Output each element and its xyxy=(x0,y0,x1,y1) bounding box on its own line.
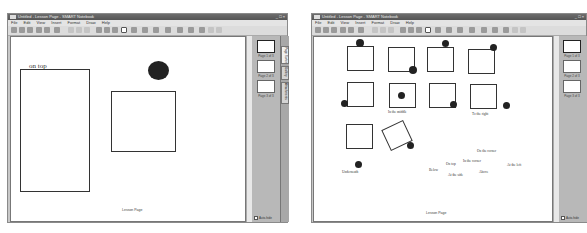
circle[interactable] xyxy=(398,92,405,99)
add-page-icon[interactable] xyxy=(27,27,33,33)
prev-page-icon[interactable] xyxy=(315,27,321,33)
shapes-icon[interactable] xyxy=(481,27,487,33)
checkbox-icon[interactable] xyxy=(254,216,258,220)
properties-icon[interactable] xyxy=(208,27,214,33)
open-icon[interactable] xyxy=(36,27,42,33)
next-page-icon[interactable] xyxy=(323,27,329,33)
menu-help[interactable]: Help xyxy=(406,20,414,25)
page-thumbnail-3[interactable] xyxy=(257,80,275,93)
creative-pen-icon[interactable] xyxy=(446,27,452,33)
text-icon[interactable] xyxy=(188,27,194,33)
screen-shade-icon[interactable] xyxy=(96,27,102,33)
page-thumbnail-3[interactable] xyxy=(563,80,581,93)
square[interactable] xyxy=(468,49,495,74)
menu-edit[interactable]: Edit xyxy=(328,20,335,25)
pen-icon[interactable] xyxy=(435,27,441,33)
text-label[interactable]: Below xyxy=(429,168,438,172)
highlighter-icon[interactable] xyxy=(153,27,159,33)
menu-format[interactable]: Format xyxy=(371,20,384,25)
circle[interactable] xyxy=(407,142,414,149)
fill-icon[interactable] xyxy=(503,27,509,33)
circle[interactable] xyxy=(450,101,457,108)
redo-icon[interactable] xyxy=(76,27,82,33)
select-arrow-icon[interactable] xyxy=(425,27,431,33)
prev-page-icon[interactable] xyxy=(11,27,17,33)
square[interactable] xyxy=(347,82,374,107)
pen-icon[interactable] xyxy=(131,27,137,33)
page-thumbnail-1[interactable] xyxy=(563,40,581,53)
page-thumbnail-2[interactable] xyxy=(563,60,581,73)
circle[interactable] xyxy=(341,100,348,107)
line-icon[interactable] xyxy=(165,27,171,33)
delete-icon[interactable] xyxy=(84,27,90,33)
menu-view[interactable]: View xyxy=(341,20,350,25)
open-icon[interactable] xyxy=(340,27,346,33)
menu-draw[interactable]: Draw xyxy=(86,20,95,25)
table-icon[interactable] xyxy=(104,27,110,33)
text-label[interactable]: On top xyxy=(446,162,456,166)
tab-attachments[interactable]: Attachments xyxy=(281,82,289,104)
auto-hide-checkbox[interactable]: Auto-hide xyxy=(561,216,579,220)
rectangle-tall[interactable] xyxy=(20,69,90,192)
delete-icon[interactable] xyxy=(388,27,394,33)
undo-icon[interactable] xyxy=(68,27,74,33)
table-icon[interactable] xyxy=(408,27,414,33)
add-page-icon[interactable] xyxy=(331,27,337,33)
menu-insert[interactable]: Insert xyxy=(51,20,61,25)
menu-draw[interactable]: Draw xyxy=(390,20,399,25)
page-thumbnail-2[interactable] xyxy=(257,60,275,73)
menu-format[interactable]: Format xyxy=(67,20,80,25)
text-label[interactable]: In the middle xyxy=(388,110,407,114)
highlighter-icon[interactable] xyxy=(457,27,463,33)
save-icon[interactable] xyxy=(348,27,354,33)
menu-file[interactable]: File xyxy=(11,20,17,25)
tab-gallery[interactable]: Gallery xyxy=(281,66,289,80)
capture-icon[interactable] xyxy=(112,27,118,33)
properties-icon[interactable] xyxy=(512,27,518,33)
line-icon[interactable] xyxy=(469,27,475,33)
menu-edit[interactable]: Edit xyxy=(24,20,31,25)
save-icon[interactable] xyxy=(44,27,50,33)
move-toolbar-icon[interactable] xyxy=(520,27,526,33)
text-label[interactable]: At the side xyxy=(448,173,463,177)
circle[interactable] xyxy=(503,102,510,109)
circle[interactable] xyxy=(409,66,417,74)
text-label[interactable]: On the corner xyxy=(477,149,496,153)
paste-icon[interactable] xyxy=(358,27,364,33)
page-thumbnail-1[interactable] xyxy=(257,40,275,53)
circle[interactable] xyxy=(490,44,497,51)
undo-icon[interactable] xyxy=(372,27,378,33)
page-canvas[interactable]: In the middle To the right Underneath On… xyxy=(313,36,553,222)
capture-icon[interactable] xyxy=(416,27,422,33)
screen-shade-icon[interactable] xyxy=(400,27,406,33)
move-toolbar-icon[interactable] xyxy=(216,27,222,33)
text-label[interactable]: To the right xyxy=(472,112,488,116)
square[interactable] xyxy=(470,84,497,109)
checkbox-icon[interactable] xyxy=(561,216,565,220)
page-canvas[interactable]: on top Lesson Page xyxy=(10,36,246,222)
circle[interactable] xyxy=(442,40,449,47)
redo-icon[interactable] xyxy=(380,27,386,33)
square[interactable] xyxy=(346,124,373,149)
text-label[interactable]: At the left xyxy=(507,163,521,167)
menu-help[interactable]: Help xyxy=(102,20,110,25)
square[interactable] xyxy=(111,91,176,152)
shapes-icon[interactable] xyxy=(177,27,183,33)
square[interactable] xyxy=(347,46,374,71)
tab-page-sorter[interactable]: Page Sorter xyxy=(281,46,289,64)
auto-hide-checkbox[interactable]: Auto-hide xyxy=(254,216,272,220)
circle[interactable] xyxy=(356,39,364,47)
menu-insert[interactable]: Insert xyxy=(355,20,365,25)
square[interactable] xyxy=(427,47,454,72)
menu-view[interactable]: View xyxy=(37,20,46,25)
paste-icon[interactable] xyxy=(54,27,60,33)
text-label[interactable]: Above xyxy=(479,170,488,174)
next-page-icon[interactable] xyxy=(19,27,25,33)
text-icon[interactable] xyxy=(492,27,498,33)
select-arrow-icon[interactable] xyxy=(121,27,127,33)
text-label[interactable]: In the corner xyxy=(463,159,481,163)
fill-icon[interactable] xyxy=(199,27,205,33)
circle[interactable] xyxy=(355,161,362,168)
circle[interactable] xyxy=(148,61,169,80)
creative-pen-icon[interactable] xyxy=(142,27,148,33)
